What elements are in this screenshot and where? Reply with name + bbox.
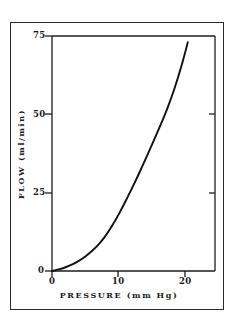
y-tick-label-25: 25 (33, 188, 46, 197)
x-axis-title: PRESSURE (mm Hg) (52, 291, 186, 299)
x-tick-label-10: 10 (112, 277, 125, 286)
flow-pressure-curve (52, 42, 188, 271)
figure-canvas: 75 50 25 0 0 10 20 PRESSURE (mm Hg) FLOW… (0, 0, 244, 327)
y-tick-label-0: 0 (38, 266, 44, 275)
y-tick-label-75: 75 (33, 31, 46, 40)
plot-frame (52, 36, 215, 271)
y-tick-label-50: 50 (33, 110, 46, 119)
x-tick-label-20: 20 (179, 277, 192, 286)
x-tick-label-0: 0 (49, 277, 55, 286)
y-axis-ticks-right (209, 114, 215, 193)
y-axis-ticks (45, 36, 52, 271)
